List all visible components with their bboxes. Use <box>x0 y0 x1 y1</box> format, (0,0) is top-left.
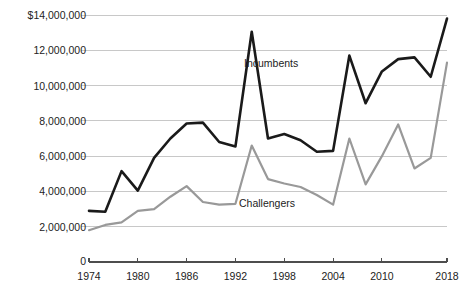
x-tick-label: 2018 <box>435 270 458 282</box>
x-tick-label: 1992 <box>224 270 247 282</box>
x-tick-label: 1980 <box>126 270 149 282</box>
series-label-challengers: Challengers <box>239 197 295 209</box>
x-tick-label: 2004 <box>321 270 344 282</box>
x-tick-label: 1974 <box>77 270 100 282</box>
series-label-incumbents: Incumbents <box>244 57 298 69</box>
x-tick-label: 2010 <box>370 270 393 282</box>
x-tick-label: 1998 <box>273 270 296 282</box>
x-tick-label: 1986 <box>175 270 198 282</box>
